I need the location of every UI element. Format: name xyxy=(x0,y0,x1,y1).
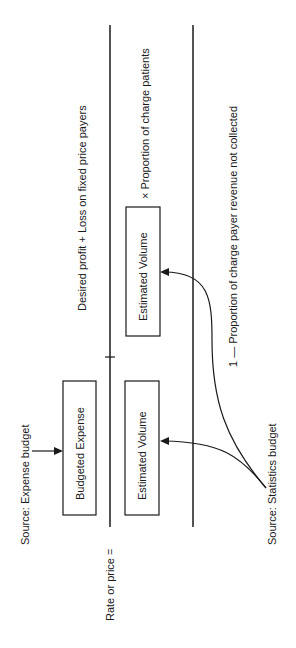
arrow-head-icon xyxy=(160,437,169,445)
statistics-curve-1 xyxy=(164,441,266,488)
budgeted-expense-label: Budgeted Expense xyxy=(74,407,86,500)
multiplier-text: × Proportion of charge patients xyxy=(139,48,151,199)
estimated-volume-label-2: Estimated Volume xyxy=(137,232,149,321)
arrow-head-icon xyxy=(54,447,63,455)
arrow-head-icon xyxy=(160,268,169,276)
factor-text: 1 — Proportion of charge payer revenue n… xyxy=(227,106,239,367)
statistics-curve-2 xyxy=(164,272,266,488)
source-expense-budget: Source: Expense budget xyxy=(19,425,31,545)
plus-text: Desired profit + Loss on fixed price pay… xyxy=(76,105,88,311)
estimated-volume-label-1: Estimated Volume xyxy=(136,411,148,500)
rate-or-price-label: Rate or price = xyxy=(104,549,116,621)
source-statistics-budget: Source: Statistics budget xyxy=(266,423,278,545)
